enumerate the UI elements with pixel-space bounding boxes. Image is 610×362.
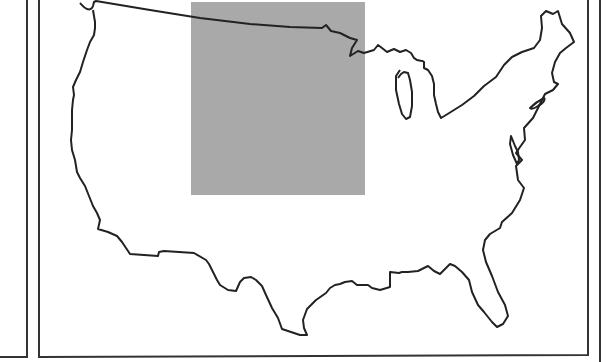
us-map-svg xyxy=(0,0,610,362)
highlighted-region xyxy=(191,2,365,195)
map-figure xyxy=(0,0,610,362)
left-outer-frame-line xyxy=(0,0,27,357)
chesapeake-bay-outline xyxy=(510,136,519,164)
long-island-outline xyxy=(530,98,545,109)
lake-michigan-outline xyxy=(396,70,412,119)
